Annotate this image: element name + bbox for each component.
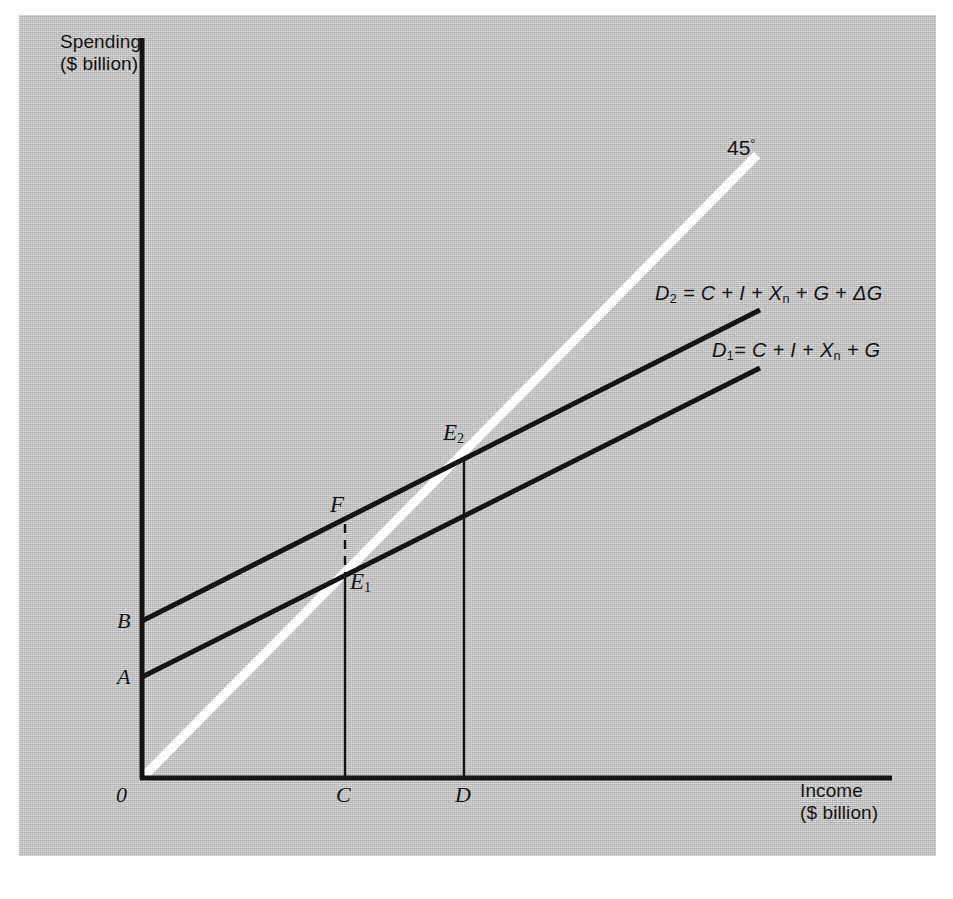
- figure-root: Spending ($ billion) Income ($ billion) …: [0, 0, 953, 899]
- point-label-f-text: F: [330, 492, 344, 517]
- forty-five-degree-value: 45: [727, 136, 750, 159]
- d1-body-sub: n: [834, 349, 841, 363]
- chart-panel-background: [19, 15, 936, 856]
- point-label-e2-sub: 2: [457, 430, 464, 446]
- y-axis-title-line2: ($ billion): [60, 53, 141, 75]
- point-label-e2-text: E: [443, 420, 457, 445]
- d1-body: = C + I + X: [734, 339, 833, 361]
- d1-symbol-sub: 1: [727, 349, 734, 363]
- d2-tail: + G + ΔG: [790, 282, 883, 304]
- y-axis-title-line1: Spending: [60, 31, 141, 53]
- x-tick-label-c: C: [336, 782, 351, 808]
- x-tick-label-d: D: [455, 782, 471, 808]
- d2-symbol: D: [655, 282, 670, 304]
- y-axis-title: Spending ($ billion): [60, 31, 141, 76]
- x-axis-title-line1: Income: [800, 780, 878, 802]
- degree-sign-icon: °: [750, 136, 755, 151]
- point-label-e1-sub: 1: [364, 579, 371, 595]
- aggregate-demand-d2-label: D2 = C + I + Xn + G + ΔG: [655, 282, 883, 307]
- x-axis-title-line2: ($ billion): [800, 802, 878, 824]
- point-label-e2: E2: [443, 419, 464, 447]
- origin-label: 0: [116, 782, 127, 808]
- d2-symbol-sub: 2: [670, 292, 677, 306]
- forty-five-degree-label: 45°: [727, 136, 756, 161]
- d1-tail: + G: [841, 339, 881, 361]
- d1-symbol: D: [712, 339, 727, 361]
- aggregate-demand-d1-label: D1= C + I + Xn + G: [712, 339, 880, 364]
- x-axis-title: Income ($ billion): [800, 780, 878, 825]
- y-intercept-label-b: B: [117, 608, 130, 634]
- point-label-e1-text: E: [350, 569, 364, 594]
- point-label-e1: E1: [350, 568, 371, 596]
- point-label-f: F: [330, 491, 344, 518]
- y-intercept-label-a: A: [117, 664, 130, 690]
- d2-body-sub: n: [782, 292, 789, 306]
- d2-body: = C + I + X: [677, 282, 782, 304]
